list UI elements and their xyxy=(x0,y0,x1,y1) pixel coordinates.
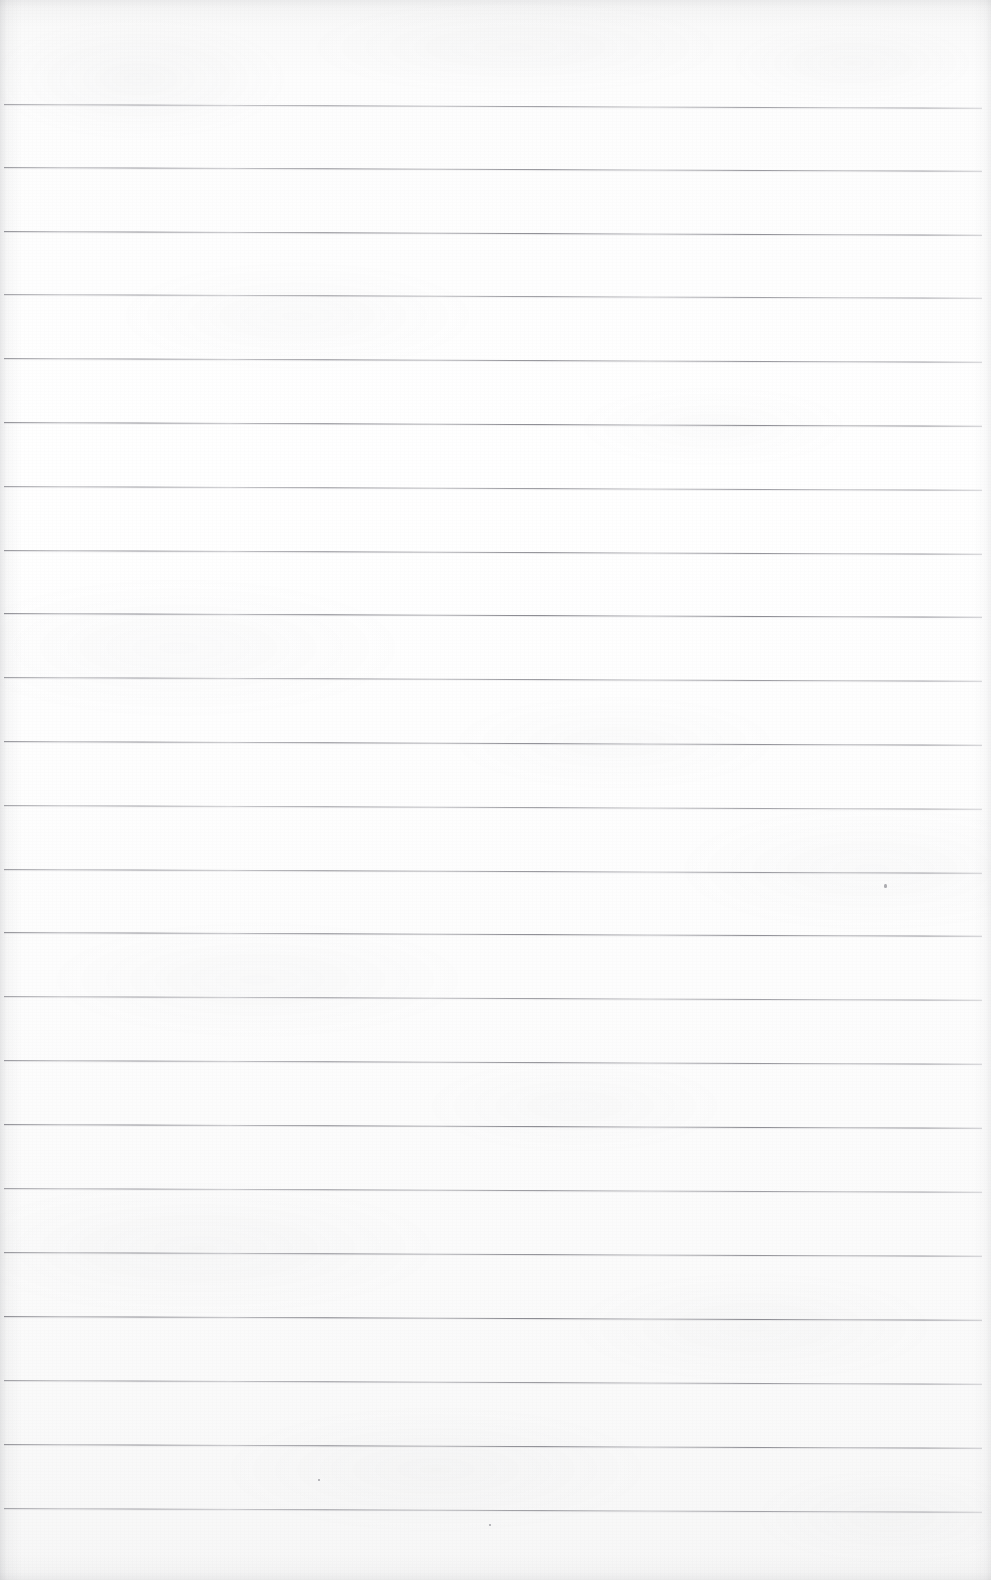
ruled-line xyxy=(4,231,982,236)
ruled-line xyxy=(4,422,982,427)
ruled-line xyxy=(4,1188,982,1193)
ruled-line xyxy=(4,1508,982,1513)
ruled-lines-group xyxy=(0,0,991,1580)
ruled-line xyxy=(4,1060,982,1065)
ruled-line xyxy=(4,996,982,1001)
ruled-line xyxy=(4,486,982,491)
ruled-line xyxy=(4,1252,982,1257)
ruled-line xyxy=(4,167,982,172)
paper-speck xyxy=(318,1479,320,1481)
ruled-line xyxy=(4,677,982,682)
ruled-line xyxy=(4,805,982,810)
ruled-line xyxy=(4,294,982,299)
ruled-line xyxy=(4,613,982,618)
paper-speck xyxy=(884,884,887,888)
ruled-line xyxy=(4,1316,982,1321)
ruled-line xyxy=(4,741,982,746)
ruled-line xyxy=(4,1380,982,1385)
paper-speck xyxy=(489,1524,491,1526)
ruled-line xyxy=(4,869,982,874)
ruled-line xyxy=(4,932,982,937)
ruled-line xyxy=(4,1124,982,1129)
scanned-page xyxy=(0,0,991,1580)
ruled-line xyxy=(4,550,982,555)
ruled-line xyxy=(4,1444,982,1449)
ruled-line xyxy=(4,104,982,109)
ruled-line xyxy=(4,358,982,363)
